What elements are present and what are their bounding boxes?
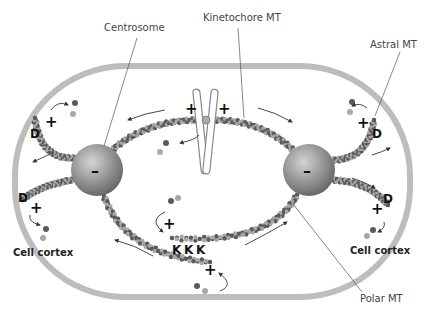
free-tubulin-dimer bbox=[364, 233, 370, 239]
arrow bbox=[378, 222, 384, 232]
free-tubulin-dimer bbox=[175, 195, 181, 201]
tubulin-subunit bbox=[372, 118, 376, 122]
kinetochore-mt-right bbox=[204, 116, 297, 154]
dynein-label: D bbox=[372, 127, 382, 141]
label-kinetochore-mt: Kinetochore MT bbox=[203, 12, 282, 23]
tubulin-subunit bbox=[214, 234, 218, 238]
plus-end-sign: + bbox=[45, 113, 58, 131]
plus-end-sign: + bbox=[371, 200, 384, 218]
centrosome-left: – bbox=[71, 144, 123, 196]
free-tubulin-dimer bbox=[168, 198, 174, 204]
kinetochore-mt-left bbox=[110, 116, 208, 152]
tubulin-subunit bbox=[179, 238, 183, 242]
arrow bbox=[372, 148, 390, 155]
free-tubulin-dimer bbox=[349, 99, 355, 105]
free-tubulin-dimer bbox=[70, 111, 76, 117]
centrosome-right: – bbox=[283, 144, 335, 196]
mitotic-spindle-diagram: – – Centrosome Kinetochore MT Astral MT … bbox=[0, 0, 427, 318]
kinesin-label: K bbox=[196, 243, 206, 257]
tubulin-subunit bbox=[189, 235, 193, 239]
tubulin-subunit bbox=[222, 236, 226, 240]
arrow bbox=[352, 104, 367, 108]
plus-end-sign: + bbox=[218, 100, 231, 118]
plus-end-sign: + bbox=[163, 215, 176, 233]
kinesin-label: K bbox=[184, 243, 194, 257]
dynein-label: D bbox=[383, 192, 393, 206]
tubulin-subunit bbox=[198, 237, 202, 241]
label-polar-mt: Polar MT bbox=[360, 293, 404, 304]
tubulin-subunit bbox=[191, 259, 195, 263]
tubulin-subunit bbox=[33, 116, 37, 120]
tubulin-subunit bbox=[184, 237, 188, 241]
tubulin-subunit bbox=[175, 237, 179, 241]
tubulin-subunit bbox=[218, 235, 222, 239]
free-tubulin-dimer bbox=[163, 140, 169, 146]
tubulin-subunit bbox=[193, 235, 197, 239]
free-tubulin-dimer bbox=[157, 149, 163, 155]
label-cell-cortex-left: Cell cortex bbox=[13, 247, 74, 258]
free-tubulin-dimer bbox=[202, 288, 208, 294]
tubulin-subunit bbox=[226, 236, 230, 240]
arrow bbox=[219, 273, 227, 291]
label-cell-cortex-right: Cell cortex bbox=[350, 245, 411, 256]
arrow bbox=[128, 110, 165, 120]
arrow bbox=[180, 135, 199, 143]
minus-end-sign: – bbox=[303, 161, 311, 180]
label-astral-mt: Astral MT bbox=[370, 39, 418, 50]
plus-end-sign: + bbox=[357, 114, 370, 132]
plus-end-sign: + bbox=[30, 199, 43, 217]
free-tubulin-dimer bbox=[43, 226, 49, 232]
arrow bbox=[258, 108, 292, 122]
minus-end-sign: – bbox=[91, 161, 99, 180]
plus-end-sign: + bbox=[204, 261, 217, 279]
dynein-label: D bbox=[30, 127, 40, 141]
free-tubulin-dimer bbox=[347, 109, 353, 115]
label-centrosome: Centrosome bbox=[104, 22, 165, 33]
tubulin-subunit bbox=[206, 238, 210, 242]
free-tubulin-dimer bbox=[40, 235, 46, 241]
plus-end-sign: + bbox=[185, 100, 198, 118]
tubulin-subunit bbox=[210, 235, 214, 239]
tubulin-subunit bbox=[196, 258, 200, 262]
free-tubulin-dimer bbox=[370, 227, 376, 233]
dynein-label: D bbox=[18, 191, 28, 205]
tubulin-subunit bbox=[202, 238, 206, 242]
tubulin-subunit bbox=[187, 259, 191, 263]
tubulin-subunit bbox=[170, 236, 174, 240]
arrow bbox=[33, 152, 54, 162]
kinesin-label: K bbox=[172, 243, 182, 257]
polar-mt-right bbox=[170, 193, 299, 243]
astral-mt-lower-left bbox=[20, 176, 75, 202]
free-tubulin-dimer bbox=[72, 100, 78, 106]
free-tubulin-dimer bbox=[194, 283, 200, 289]
astral-mt-upper-right bbox=[330, 118, 378, 164]
arrow bbox=[51, 103, 68, 110]
